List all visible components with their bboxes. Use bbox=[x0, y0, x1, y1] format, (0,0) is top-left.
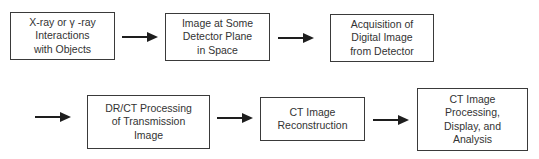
node-label: DR/CT Processing of Transmission Image bbox=[105, 102, 192, 143]
node-label: X-ray or γ -ray Interactions with Object… bbox=[29, 16, 96, 57]
node-label: Image at Some Detector Plane in Space bbox=[182, 17, 253, 58]
arrow-right-icon bbox=[278, 33, 314, 43]
node-xray-interactions: X-ray or γ -ray Interactions with Object… bbox=[10, 12, 115, 60]
node-label: CT Image Reconstruction bbox=[277, 106, 347, 133]
node-ct-reconstruction: CT Image Reconstruction bbox=[260, 97, 365, 141]
node-drct-processing: DR/CT Processing of Transmission Image bbox=[87, 95, 210, 149]
arrow-right-icon bbox=[35, 112, 71, 122]
node-ct-processing-display-analysis: CT Image Processing, Display, and Analys… bbox=[417, 88, 528, 151]
node-detector-plane-image: Image at Some Detector Plane in Space bbox=[165, 13, 270, 61]
arrow-right-icon bbox=[373, 115, 409, 125]
node-digital-acquisition: Acquisition of Digital Image from Detect… bbox=[330, 14, 434, 62]
arrow-right-icon bbox=[122, 32, 158, 42]
node-label: Acquisition of Digital Image from Detect… bbox=[350, 18, 414, 59]
node-label: CT Image Processing, Display, and Analys… bbox=[444, 93, 501, 147]
arrow-right-icon bbox=[217, 113, 253, 123]
